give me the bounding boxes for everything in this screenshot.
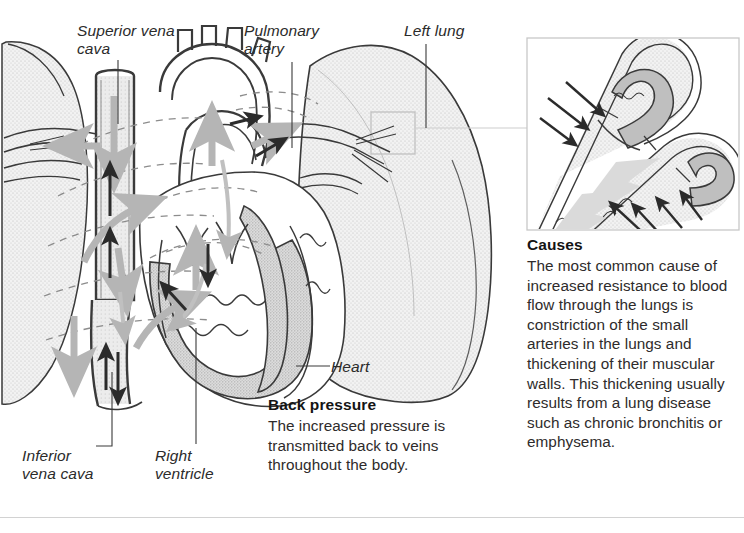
label-right-ventricle: Right ventricle — [155, 447, 214, 483]
back-pressure-body: The increased pressure is transmitted ba… — [268, 416, 494, 475]
label-left-lung: Left lung — [404, 22, 464, 40]
figure-page: Superior vena cava Pulmonary artery Left… — [0, 0, 744, 533]
footer-divider — [0, 517, 744, 518]
label-superior-vena-cava: Superior vena cava — [77, 22, 175, 58]
heart-silhouette — [140, 172, 345, 406]
causes-heading: Causes — [527, 236, 583, 254]
back-pressure-heading: Back pressure — [268, 396, 376, 414]
label-heart: Heart — [331, 358, 369, 376]
causes-body: The most common cause of increased resis… — [527, 256, 744, 452]
label-inferior-vena-cava: Inferior vena cava — [22, 447, 94, 483]
label-pulmonary-artery: Pulmonary artery — [244, 22, 319, 58]
inset-panel — [527, 33, 742, 252]
